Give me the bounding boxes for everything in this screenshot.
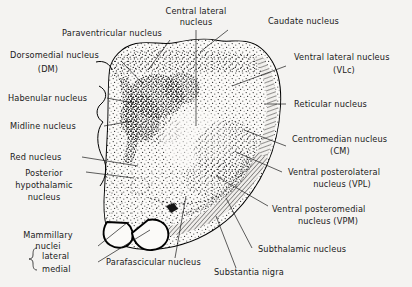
label-ventral-lateral-line2: (VLc) (333, 65, 355, 75)
label-dorsomedial: Dorsomedial nucleus (DM) (10, 50, 99, 74)
label-centromedian-line2: (CM) (330, 146, 350, 156)
label-paraventricular: Paraventricular nucleus (62, 28, 162, 38)
label-central-lateral-line2: nucleus (180, 17, 213, 27)
label-vpl-line1: Ventral posterolateral (288, 167, 380, 177)
label-subthalamic: Subthalamic nucleus (258, 244, 346, 254)
label-mammillary: Mammillary nuclei lateral medial (23, 230, 73, 274)
label-vpm-line2: nucleus (VPM) (298, 216, 358, 226)
label-centromedian-line1: Centromedian nucleus (292, 134, 387, 144)
label-central-lateral: Central lateral nucleus (166, 6, 227, 27)
label-caudate: Caudate nucleus (268, 16, 339, 26)
label-posterior-hypothalamic-line3: nucleus (28, 192, 61, 202)
label-ventral-lateral: Ventral lateral nucleus (VLc) (294, 52, 390, 75)
label-parafascicular: Parafascicular nucleus (106, 257, 201, 267)
label-midline: Midline nucleus (10, 121, 76, 131)
label-posterior-hypothalamic: Posterior hypothalamic nucleus (15, 168, 73, 202)
thalamus-diagram: Central lateral nucleus Caudate nucleus … (0, 0, 412, 287)
label-habenular: Habenular nucleus (8, 93, 87, 103)
label-reticular: Reticular nucleus (294, 99, 367, 109)
label-central-lateral-line1: Central lateral (166, 6, 227, 16)
body-texture (100, 35, 290, 255)
label-ventral-lateral-line1: Ventral lateral nucleus (294, 52, 390, 62)
label-mammillary-lateral: lateral (42, 251, 69, 261)
label-posterior-hypothalamic-line1: Posterior (25, 168, 63, 178)
mammillary-brace (29, 248, 37, 270)
label-vpl: Ventral posterolateral nucleus (VPL) (288, 167, 380, 189)
label-mammillary-medial: medial (42, 264, 71, 274)
label-mammillary-line2: nuclei (35, 241, 60, 251)
label-substantia-nigra: Substantia nigra (214, 267, 284, 277)
label-vpm: Ventral posteromedial nucleus (VPM) (272, 204, 366, 226)
label-centromedian: Centromedian nucleus (CM) (292, 134, 387, 156)
label-dorsomedial-line2: (DM) (38, 64, 58, 74)
label-dorsomedial-line1: Dorsomedial nucleus (10, 50, 99, 60)
label-mammillary-line1: Mammillary (23, 230, 73, 240)
label-red: Red nucleus (10, 152, 61, 162)
thalamus-body (96, 35, 290, 255)
leader-substantia-nigra (216, 216, 236, 268)
label-posterior-hypothalamic-line2: hypothalamic (15, 180, 73, 190)
label-vpl-line2: nucleus (VPL) (313, 179, 371, 189)
label-vpm-line1: Ventral posteromedial (272, 204, 366, 214)
